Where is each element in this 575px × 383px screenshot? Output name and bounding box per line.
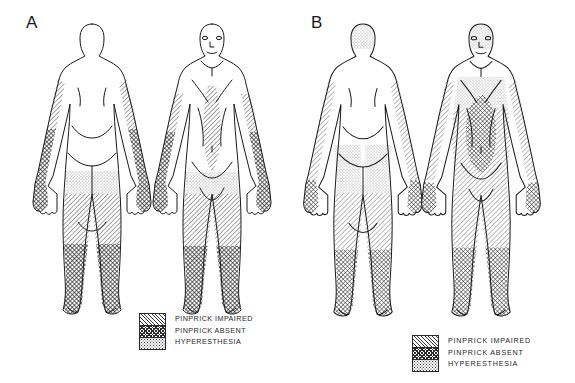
legend-label-pinprick-impaired: PINPRICK IMPAIRED bbox=[175, 313, 253, 325]
legend-swatch-stack bbox=[412, 335, 439, 372]
panel-b: B bbox=[287, 0, 575, 383]
legend-swatch-pinprick-absent bbox=[413, 348, 438, 360]
panel-a: A bbox=[0, 0, 287, 383]
body-diagram-a-anterior bbox=[152, 16, 272, 326]
body-diagram-b-posterior bbox=[302, 16, 424, 328]
sensory-deficit-figure: A bbox=[0, 0, 575, 383]
legend-label-pinprick-absent: PINPRICK ABSENT bbox=[448, 347, 531, 359]
legend-label-hyperesthesia: HYPERESTHESIA bbox=[175, 336, 253, 348]
legend-label-stack: PINPRICK IMPAIRED PINPRICK ABSENT HYPERE… bbox=[175, 313, 253, 348]
legend-label-hyperesthesia: HYPERESTHESIA bbox=[448, 358, 531, 370]
legend-label-pinprick-impaired: PINPRICK IMPAIRED bbox=[448, 335, 531, 347]
legend-swatch-hyperesthesia bbox=[413, 360, 438, 371]
legend-swatch-hyperesthesia bbox=[140, 338, 165, 349]
legend-swatch-pinprick-impaired bbox=[413, 336, 438, 348]
legend-swatch-stack bbox=[139, 313, 166, 350]
legend-panel-a: PINPRICK IMPAIRED PINPRICK ABSENT HYPERE… bbox=[139, 313, 253, 350]
body-diagram-b-anterior bbox=[420, 16, 542, 328]
legend-swatch-pinprick-absent bbox=[140, 326, 165, 338]
legend-label-pinprick-absent: PINPRICK ABSENT bbox=[175, 325, 253, 337]
legend-panel-b: PINPRICK IMPAIRED PINPRICK ABSENT HYPERE… bbox=[412, 335, 531, 372]
legend-swatch-pinprick-impaired bbox=[140, 314, 165, 326]
legend-label-stack: PINPRICK IMPAIRED PINPRICK ABSENT HYPERE… bbox=[448, 335, 531, 370]
body-diagram-a-posterior bbox=[32, 16, 152, 326]
